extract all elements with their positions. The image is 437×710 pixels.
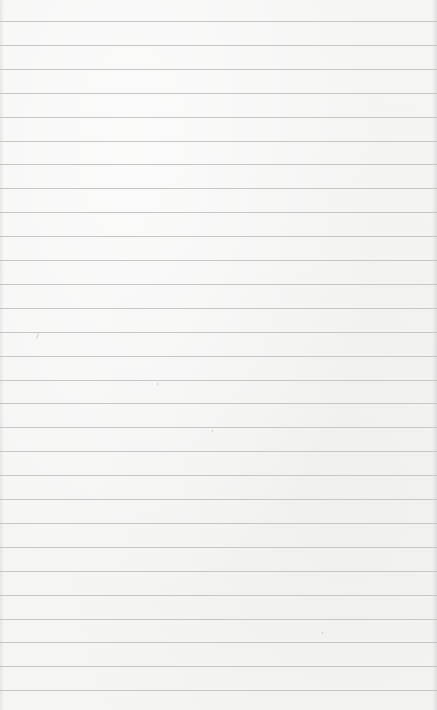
ruled-line xyxy=(0,188,437,189)
ruled-line xyxy=(0,212,437,213)
ruled-line xyxy=(0,619,437,620)
ruled-line xyxy=(0,141,437,142)
ruled-line xyxy=(0,451,437,452)
ruled-line xyxy=(0,642,437,643)
ruled-line xyxy=(0,117,437,118)
ruled-line xyxy=(0,164,437,165)
ruled-line xyxy=(0,666,437,667)
ruled-line xyxy=(0,332,437,333)
paper-speck xyxy=(322,632,323,634)
ruled-line xyxy=(0,523,437,524)
paper-fiber xyxy=(36,333,39,339)
paper-speck xyxy=(157,383,158,385)
ruled-line xyxy=(0,475,437,476)
paper-left-edge xyxy=(0,0,4,710)
ruled-line xyxy=(0,571,437,572)
paper-speck xyxy=(212,430,213,432)
ruled-line xyxy=(0,284,437,285)
ruled-line xyxy=(0,690,437,691)
ruled-line xyxy=(0,308,437,309)
ruled-line xyxy=(0,595,437,596)
ruled-line xyxy=(0,356,437,357)
ruled-line xyxy=(0,547,437,548)
ruled-line xyxy=(0,403,437,404)
ruled-line xyxy=(0,93,437,94)
ruled-line xyxy=(0,45,437,46)
ruled-line xyxy=(0,69,437,70)
ruled-line xyxy=(0,427,437,428)
lined-paper-sheet xyxy=(0,0,437,710)
ruled-line xyxy=(0,260,437,261)
ruled-line xyxy=(0,499,437,500)
paper-right-edge xyxy=(432,0,437,710)
ruled-line xyxy=(0,236,437,237)
ruled-line xyxy=(0,21,437,22)
ruled-line xyxy=(0,380,437,381)
